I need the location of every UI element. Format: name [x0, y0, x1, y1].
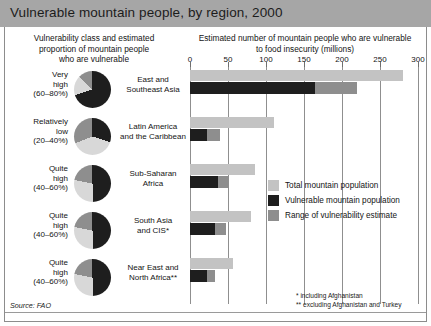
region-name-label: Latin Americaand the Caribbean	[118, 122, 188, 142]
figure-title: Vulnerable mountain people, by region, 2…	[10, 5, 283, 20]
vulnerability-class-line-2: low	[8, 127, 68, 137]
tickmark-250	[380, 62, 381, 67]
region-name-line-2: and the Caribbean	[118, 132, 188, 142]
vulnerability-proportion-pie-chart	[74, 118, 111, 155]
vulnerability-class-line-2: high	[8, 221, 68, 231]
legend-label: Vulnerable mountain population	[285, 196, 400, 205]
legend-swatch-icon	[268, 180, 279, 191]
vulnerability-class-line-1: Quite	[8, 164, 68, 174]
vulnerability-class-label: Relativelylow(20–40%)	[8, 117, 68, 146]
region-name-label: East andSoutheast Asia	[118, 75, 188, 95]
left-header-line-3: who are vulnerable	[8, 54, 180, 65]
axis-title-line-2: to food insecurity (millions)	[186, 44, 424, 55]
tickmark-150	[304, 62, 305, 67]
vulnerability-class-line-2: high	[8, 268, 68, 278]
vulnerability-class-line-2: high	[8, 80, 68, 90]
region-name-line-2: and CIS*	[118, 226, 188, 236]
bar-group	[190, 70, 418, 96]
vulnerability-class-label: Quitehigh(40–60%)	[8, 164, 68, 193]
region-name-line-1: East and	[118, 75, 188, 85]
vulnerability-class-line-1: Relatively	[8, 117, 68, 127]
vulnerability-class-line-3: (20–40%)	[8, 136, 68, 146]
region-name-line-2: Africa	[118, 179, 188, 189]
legend-item: Range of vulnerability estimate	[268, 210, 418, 221]
legend-item: Vulnerable mountain population	[268, 195, 418, 206]
vulnerability-class-line-2: high	[8, 174, 68, 184]
region-row: Quitehigh(40–60%)Near East andNorth Afri…	[8, 258, 184, 304]
vulnerability-proportion-pie-chart	[74, 259, 111, 296]
tickmark-200	[342, 62, 343, 67]
footnotes: * including Afghanistan ** excluding Afg…	[296, 292, 402, 309]
region-name-line-2: North Africa**	[118, 273, 188, 283]
vulnerability-class-line-1: Quite	[8, 211, 68, 221]
region-name-label: South Asiaand CIS*	[118, 216, 188, 236]
region-name-label: Near East andNorth Africa**	[118, 263, 188, 283]
left-header-line-2: proportion of mountain people	[8, 44, 180, 55]
source-divider	[5, 312, 426, 313]
bar-group	[190, 258, 418, 284]
bar-vulnerable-population	[190, 223, 215, 235]
vulnerability-class-line-3: (60–80%)	[8, 89, 68, 99]
gridline-300	[418, 67, 419, 304]
source-note: Source: FAO	[10, 301, 51, 310]
bar-vulnerable-population	[190, 82, 315, 94]
bar-total-population	[190, 70, 403, 81]
footnote-one: * including Afghanistan	[296, 292, 402, 301]
figure-root: Vulnerable mountain people, by region, 2…	[0, 0, 431, 326]
tickmark-300	[418, 62, 419, 67]
vulnerability-class-label: Quitehigh(40–60%)	[8, 211, 68, 240]
region-name-line-2: Southeast Asia	[118, 85, 188, 95]
vulnerability-class-line-3: (40–60%)	[8, 183, 68, 193]
legend-label: Total mountain population	[285, 181, 378, 190]
vulnerability-class-line-1: Very	[8, 70, 68, 80]
legend-swatch-icon	[268, 210, 279, 221]
chart-axis-title: Estimated number of mountain people who …	[186, 33, 424, 54]
region-row: Veryhigh(60–80%)East andSoutheast Asia	[8, 70, 184, 116]
tickmark-100	[266, 62, 267, 67]
tickmark-50	[228, 62, 229, 67]
vulnerability-proportion-pie-chart	[74, 71, 111, 108]
left-column-header: Vulnerability class and estimated propor…	[8, 33, 180, 65]
region-row: Quitehigh(40–60%)Sub-SaharanAfrica	[8, 164, 184, 210]
vulnerability-class-line-3: (40–60%)	[8, 277, 68, 287]
region-name-line-1: Near East and	[118, 263, 188, 273]
bar-total-population	[190, 117, 274, 128]
bar-total-population	[190, 164, 255, 175]
bar-vulnerable-population	[190, 129, 207, 141]
bar-group	[190, 117, 418, 143]
footnote-two: ** excluding Afghanistan and Turkey	[296, 301, 402, 310]
bar-vulnerable-population	[190, 270, 207, 282]
region-row: Relativelylow(20–40%)Latin Americaand th…	[8, 117, 184, 163]
vulnerability-class-line-1: Quite	[8, 258, 68, 268]
bar-total-population	[190, 211, 251, 222]
region-row: Quitehigh(40–60%)South Asiaand CIS*	[8, 211, 184, 257]
vulnerability-proportion-pie-chart	[74, 212, 111, 249]
axis-title-line-1: Estimated number of mountain people who …	[186, 33, 424, 44]
vulnerability-class-line-3: (40–60%)	[8, 230, 68, 240]
region-name-line-1: Sub-Saharan	[118, 169, 188, 179]
vulnerability-class-label: Veryhigh(60–80%)	[8, 70, 68, 99]
legend-item: Total mountain population	[268, 180, 418, 191]
region-name-line-1: Latin America	[118, 122, 188, 132]
title-band: Vulnerable mountain people, by region, 2…	[0, 0, 431, 27]
region-name-label: Sub-SaharanAfrica	[118, 169, 188, 189]
left-header-line-1: Vulnerability class and estimated	[8, 33, 180, 44]
legend-swatch-icon	[268, 195, 279, 206]
vulnerability-proportion-pie-chart	[74, 165, 111, 202]
vulnerability-class-label: Quitehigh(40–60%)	[8, 258, 68, 287]
legend-label: Range of vulnerability estimate	[285, 211, 397, 220]
bar-vulnerable-population	[190, 176, 218, 188]
bar-total-population	[190, 258, 233, 269]
chart-legend: Total mountain populationVulnerable moun…	[268, 180, 418, 225]
region-name-line-1: South Asia	[118, 216, 188, 226]
tickmark-0	[190, 62, 191, 67]
